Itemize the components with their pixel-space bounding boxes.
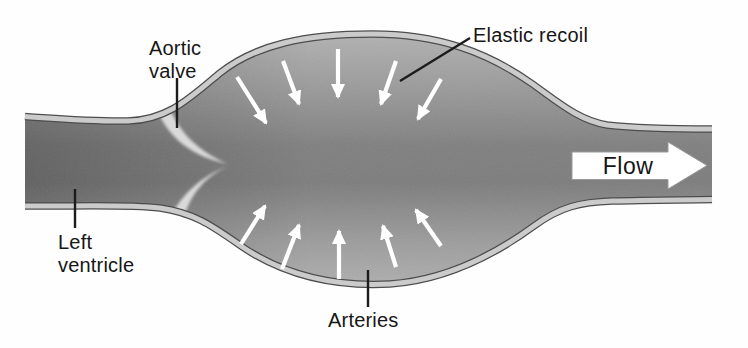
label-elastic-recoil: Elastic recoil [473,24,588,47]
flow-label: Flow [603,153,654,179]
label-left-ventricle-line1: Left [58,231,134,254]
label-aortic-valve-line2: valve [149,60,201,83]
label-aortic-valve: Aortic valve [149,37,201,83]
label-elastic-recoil-text: Elastic recoil [473,24,588,47]
label-left-ventricle: Left ventricle [58,231,134,277]
label-aortic-valve-line1: Aortic [149,37,201,60]
figure-canvas: Flow Aortic valve Elastic recoil Left ve… [0,0,748,348]
label-arteries: Arteries [328,309,399,332]
vessel-diagram: Flow [0,0,748,348]
label-arteries-text: Arteries [328,309,399,332]
label-left-ventricle-line2: ventricle [58,254,134,277]
